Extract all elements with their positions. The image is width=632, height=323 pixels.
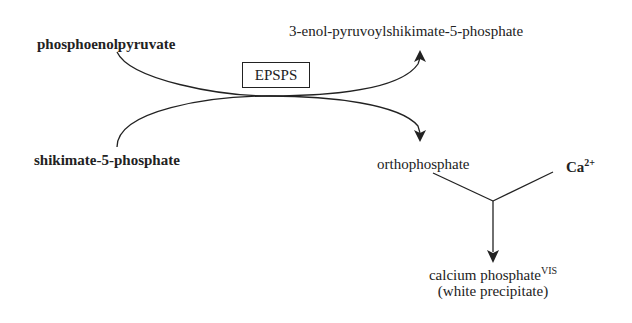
substrate-bottom-to-product-bottom-curve (117, 96, 420, 147)
enzyme-box-epsps: EPSPS (242, 62, 310, 88)
calcium-branch (493, 172, 553, 201)
reagent-label: Ca (566, 159, 584, 175)
enzyme-label: EPSPS (255, 67, 298, 84)
reagent-calcium-ion: Ca2+ (566, 158, 595, 175)
final-product-note: (white precipitate) (413, 284, 573, 299)
final-product-calcium-phosphate: calcium phosphateVIS (413, 266, 573, 283)
product-epsp: 3-enol-pyruvoylshikimate-5-phosphate (289, 24, 523, 39)
substrate-shikimate-5-phosphate: shikimate-5-phosphate (34, 153, 180, 168)
final-product-label: calcium phosphate (429, 267, 541, 283)
orthophosphate-branch (433, 173, 493, 201)
substrate-phosphoenolpyruvate: phosphoenolpyruvate (37, 37, 175, 52)
arrowhead-up-icon (414, 50, 426, 62)
reagent-charge: 2+ (584, 157, 595, 168)
product-orthophosphate: orthophosphate (377, 157, 469, 172)
final-product-superscript: VIS (541, 265, 557, 276)
